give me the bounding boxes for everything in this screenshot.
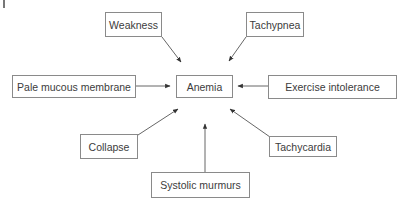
node-label: Exercise intolerance	[285, 81, 380, 93]
node-collapse: Collapse	[80, 134, 138, 159]
node-label: Tachypnea	[250, 19, 301, 31]
node-exercise-intolerance: Exercise intolerance	[268, 75, 397, 99]
edge-weakness-anemia	[162, 37, 181, 62]
node-pale-mucous-membrane: Pale mucous membrane	[12, 75, 136, 98]
node-label: Tachycardia	[275, 141, 331, 153]
node-label: Pale mucous membrane	[17, 81, 131, 93]
node-systolic-murmurs: Systolic murmurs	[151, 172, 250, 198]
edge-tachycardia-anemia	[230, 109, 270, 137]
node-weakness: Weakness	[105, 12, 162, 37]
edge-collapse-anemia	[138, 109, 178, 135]
node-tachypnea: Tachypnea	[246, 12, 304, 37]
node-tachycardia: Tachycardia	[269, 136, 337, 157]
edge-tachypnea-anemia	[229, 37, 246, 61]
node-label: Anemia	[187, 81, 223, 93]
node-label: Weakness	[109, 19, 158, 31]
node-label: Systolic murmurs	[160, 179, 241, 191]
node-label: Collapse	[89, 141, 130, 153]
node-anemia: Anemia	[176, 75, 233, 98]
